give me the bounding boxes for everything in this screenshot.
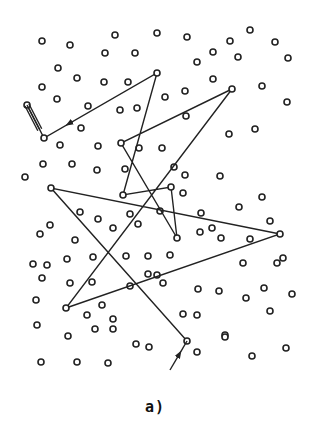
- point-circle: [184, 34, 190, 40]
- point-circle: [34, 322, 40, 328]
- point-circle: [39, 275, 45, 281]
- path-vertex: [277, 231, 283, 237]
- point-circle: [198, 210, 204, 216]
- point-circle: [283, 345, 289, 351]
- point-circle: [78, 125, 84, 131]
- point-circle: [209, 225, 215, 231]
- point-circle: [235, 54, 241, 60]
- point-circle: [67, 42, 73, 48]
- point-circle: [180, 311, 186, 317]
- point-circle: [240, 260, 246, 266]
- point-circle: [284, 99, 290, 105]
- path-vertex: [174, 235, 180, 241]
- point-circle: [280, 255, 286, 261]
- point-circle: [145, 253, 151, 259]
- point-circle: [267, 308, 273, 314]
- point-circle: [69, 161, 75, 167]
- random-walk-diagram: [0, 0, 310, 448]
- point-circle: [259, 194, 265, 200]
- point-circle: [37, 231, 43, 237]
- point-circle: [247, 27, 253, 33]
- point-circle: [105, 360, 111, 366]
- figure-caption: a): [0, 398, 310, 416]
- point-circle: [249, 353, 255, 359]
- point-circle: [64, 256, 70, 262]
- point-circle: [243, 295, 249, 301]
- point-circle: [194, 349, 200, 355]
- point-circle: [252, 126, 258, 132]
- point-circle: [22, 174, 28, 180]
- point-circle: [267, 218, 273, 224]
- point-circle: [194, 312, 200, 318]
- point-circle: [101, 79, 107, 85]
- point-circle: [180, 190, 186, 196]
- point-circle: [182, 88, 188, 94]
- point-circle: [194, 59, 200, 65]
- point-circle: [132, 50, 138, 56]
- point-circle: [74, 359, 80, 365]
- point-circle: [47, 222, 53, 228]
- point-circle: [134, 105, 140, 111]
- point-circle: [217, 173, 223, 179]
- point-circle: [218, 235, 224, 241]
- point-circle: [133, 341, 139, 347]
- point-circle: [162, 94, 168, 100]
- point-circle: [77, 209, 83, 215]
- point-circle: [65, 333, 71, 339]
- point-circle: [85, 103, 91, 109]
- point-circle: [30, 261, 36, 267]
- point-circle: [99, 302, 105, 308]
- point-circle: [112, 32, 118, 38]
- point-circle: [127, 211, 133, 217]
- point-circle: [95, 143, 101, 149]
- point-circle: [72, 237, 78, 243]
- point-circle: [167, 252, 173, 258]
- scatter-points: [22, 27, 295, 366]
- point-circle: [57, 142, 63, 148]
- end-marker-icon: [27, 105, 40, 130]
- point-circle: [125, 79, 131, 85]
- point-circle: [92, 326, 98, 332]
- path-vertex: [41, 135, 47, 141]
- point-circle: [89, 279, 95, 285]
- point-circle: [259, 83, 265, 89]
- point-circle: [226, 131, 232, 137]
- path-vertex: [63, 305, 69, 311]
- point-circle: [159, 145, 165, 151]
- point-circle: [39, 84, 45, 90]
- point-circle: [38, 359, 44, 365]
- point-circle: [39, 38, 45, 44]
- point-circle: [274, 260, 280, 266]
- point-circle: [285, 55, 291, 61]
- point-circle: [272, 39, 278, 45]
- path-vertex: [118, 140, 124, 146]
- point-circle: [145, 271, 151, 277]
- point-circle: [247, 236, 253, 242]
- point-circle: [84, 312, 90, 318]
- point-circle: [135, 221, 141, 227]
- point-circle: [210, 76, 216, 82]
- point-circle: [123, 253, 129, 259]
- point-circle: [110, 326, 116, 332]
- point-circle: [74, 75, 80, 81]
- point-circle: [110, 316, 116, 322]
- path-vertex: [48, 185, 54, 191]
- path-vertex: [229, 86, 235, 92]
- path-vertex: [154, 70, 160, 76]
- point-circle: [146, 344, 152, 350]
- point-circle: [40, 161, 46, 167]
- point-circle: [95, 216, 101, 222]
- point-circle: [160, 280, 166, 286]
- point-circle: [222, 334, 228, 340]
- point-circle: [216, 288, 222, 294]
- point-circle: [183, 113, 189, 119]
- point-circle: [110, 225, 116, 231]
- point-circle: [102, 50, 108, 56]
- path-vertex: [168, 184, 174, 190]
- point-circle: [236, 204, 242, 210]
- point-circle: [33, 297, 39, 303]
- point-circle: [154, 30, 160, 36]
- point-circle: [195, 286, 201, 292]
- walk-path: [24, 70, 283, 344]
- point-circle: [122, 166, 128, 172]
